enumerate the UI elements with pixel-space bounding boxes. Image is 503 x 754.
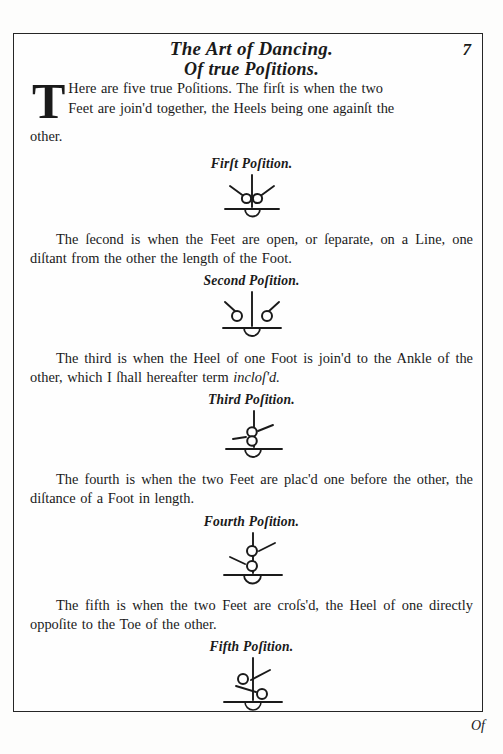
fifth-position-diagram [30,656,473,714]
paragraph-third-emphasis: incloſ'd. [233,369,280,385]
first-position-diagram [30,173,473,221]
caption-second-position: Second Poſition. [30,273,473,289]
intro-line-3: other. [30,127,473,146]
caption-fifth-position: Fifth Poſition. [30,639,473,655]
third-position-diagram [30,409,473,461]
caption-first-position: Firſt Poſition. [30,156,473,172]
fourth-position-diagram [30,531,473,587]
page-number: 7 [463,40,472,60]
page-content: The Art of Dancing. Of true Poſitions. 7… [30,38,473,714]
drop-cap-letter: T [30,79,67,123]
position-block-second: The ſecond is when the Feet are open, or… [30,230,473,340]
position-block-fifth: The fifth is when the two Feet are croſs… [30,596,473,714]
second-position-diagram [30,290,473,340]
paragraph-fifth-position: The fifth is when the two Feet are croſs… [30,596,473,634]
scanned-page: The Art of Dancing. Of true Poſitions. 7… [0,0,503,754]
position-block-fourth: The fourth is when the two Feet are plac… [30,470,473,586]
paragraph-third-position: The third is when the Heel of one Foot i… [30,349,473,387]
running-head: The Art of Dancing. Of true Poſitions. 7 [30,38,473,79]
caption-fourth-position: Fourth Poſition. [30,514,473,530]
running-head-subtitle: Of true Poſitions. [30,59,473,79]
position-block-first: Firſt Poſition. [30,156,473,221]
paragraph-fourth-position: The fourth is when the two Feet are plac… [30,470,473,508]
catchword: Of [471,718,485,734]
position-block-third: The third is when the Heel of one Foot i… [30,349,473,461]
running-head-title: The Art of Dancing. [30,38,473,59]
intro-line-1: Here are five true Poſitions. The firſt … [30,79,473,98]
caption-third-position: Third Poſition. [30,392,473,408]
intro-line-2: Feet are join'd together, the Heels bein… [30,99,473,118]
intro-paragraph: T Here are five true Poſitions. The firſ… [30,79,473,127]
paragraph-second-position: The ſecond is when the Feet are open, or… [30,230,473,268]
